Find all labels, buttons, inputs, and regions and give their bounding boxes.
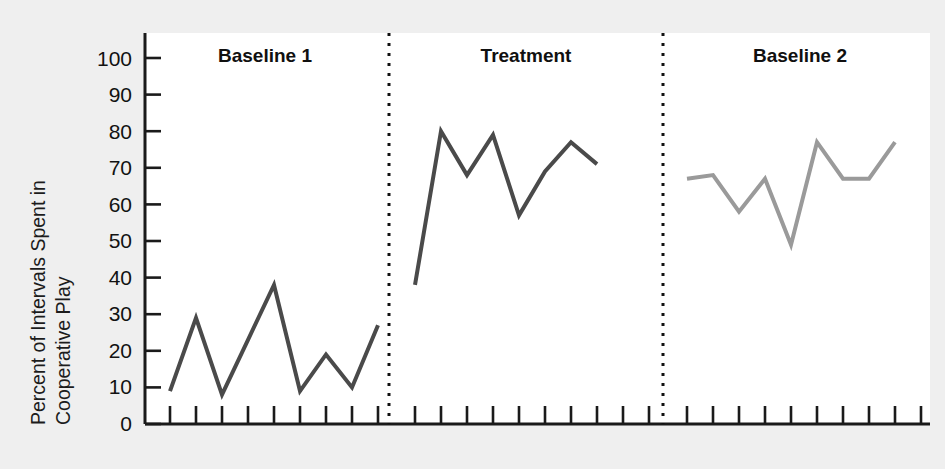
y-tick-label-10: 10: [109, 375, 132, 398]
y-tick-label-0: 0: [120, 412, 132, 435]
y-tick-label-60: 60: [109, 193, 132, 216]
y-tick-label-30: 30: [109, 302, 132, 325]
phase-label-baseline-2: Baseline 2: [753, 45, 847, 66]
y-tick-label-90: 90: [109, 83, 132, 106]
y-axis-title-line2: Cooperative Play: [52, 276, 74, 425]
y-tick-label-40: 40: [109, 266, 132, 289]
plot-area-background: [145, 33, 930, 425]
y-tick-label-70: 70: [109, 156, 132, 179]
y-tick-label-20: 20: [109, 339, 132, 362]
single-case-design-line-chart: Percent of Intervals Spent in Cooperativ…: [0, 0, 945, 469]
y-tick-label-80: 80: [109, 120, 132, 143]
y-axis-title-line1: Percent of Intervals Spent in: [27, 180, 49, 425]
phase-label-treatment: Treatment: [481, 45, 572, 66]
y-tick-label-100: 100: [97, 47, 132, 70]
phase-label-baseline-1: Baseline 1: [218, 45, 312, 66]
chart-figure: Percent of Intervals Spent in Cooperativ…: [0, 0, 945, 469]
y-tick-label-50: 50: [109, 229, 132, 252]
